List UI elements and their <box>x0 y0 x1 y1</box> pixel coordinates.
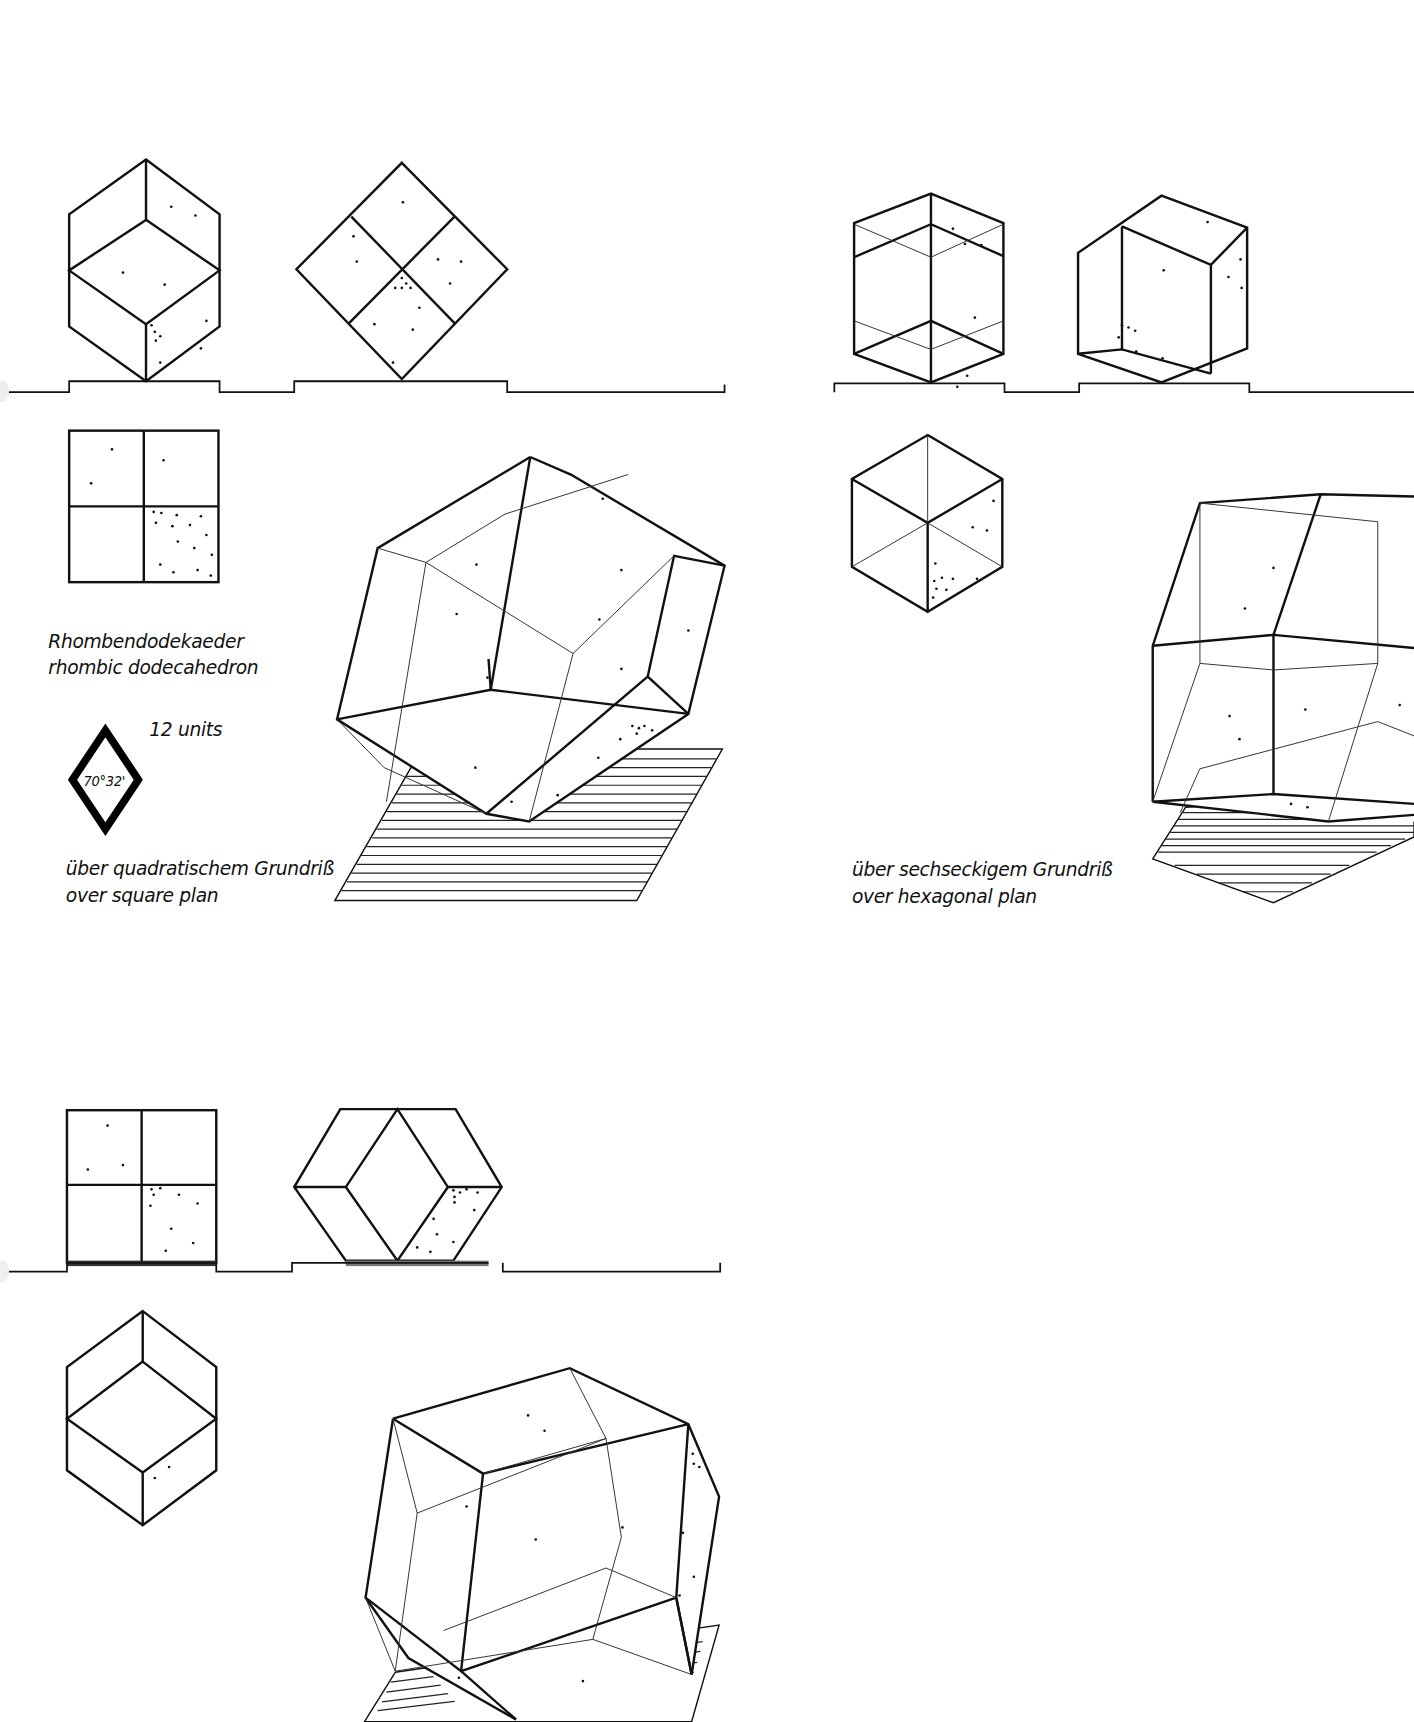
caption-square-german: über quadratischem Grundriß <box>66 858 334 879</box>
scan-mark <box>0 380 9 402</box>
caption-hex-german: über sechseckigem Grundriß <box>852 859 1113 880</box>
drawing-sheet: Rhombendodekaeder rhombic dodecahedron 7… <box>0 0 1414 1722</box>
title-german: Rhombendodekaeder <box>48 631 245 652</box>
perspective-dodecahedron-variant <box>364 1368 719 1722</box>
panel-square-plan: Rhombendodekaeder rhombic dodecahedron 7… <box>9 159 725 905</box>
panel-hexagonal-plan: über sechseckigem Grundriß over hexagona… <box>834 194 1414 907</box>
elevation-hex-band <box>294 1109 501 1266</box>
elevation-front-view <box>69 159 219 381</box>
plan-elongated-hex <box>67 1311 216 1525</box>
ground-line-hex <box>834 383 1414 392</box>
perspective-dodecahedron-square <box>335 457 725 901</box>
plan-square <box>69 431 218 583</box>
caption-hex-english: over hexagonal plan <box>852 886 1037 907</box>
ground-line <box>9 381 725 392</box>
technical-drawing: Rhombendodekaeder rhombic dodecahedron 7… <box>0 0 1414 1722</box>
panel-square-plan-variant <box>9 1109 720 1722</box>
perspective-dodecahedron-hex <box>1153 494 1414 902</box>
scan-mark <box>0 1261 9 1283</box>
elevation-hex-rotated <box>1078 196 1247 383</box>
elevation-diamond-view <box>296 163 507 379</box>
angle-label: 70°32' <box>83 774 125 789</box>
units-label: 12 units <box>149 719 223 740</box>
title-english: rhombic dodecahedron <box>48 657 258 678</box>
elevation-hex-front <box>854 194 1003 389</box>
caption-square-english: over square plan <box>66 885 218 906</box>
unit-badge: 70°32' 12 units <box>72 719 222 829</box>
elevation-square-front <box>67 1110 216 1266</box>
plan-hexagon <box>852 435 1002 612</box>
